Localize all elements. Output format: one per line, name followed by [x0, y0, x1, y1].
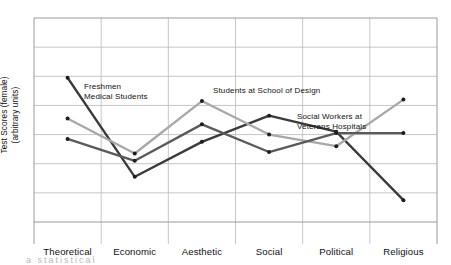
grid-layer: [34, 18, 437, 244]
data-point: [334, 131, 338, 135]
page-edge-artifact: a statistical: [26, 255, 97, 265]
data-point: [133, 152, 137, 156]
data-point: [66, 76, 70, 80]
data-point: [133, 159, 137, 163]
data-point: [66, 117, 70, 121]
data-point: [200, 99, 204, 103]
data-point: [66, 137, 70, 141]
data-point: [401, 98, 405, 102]
x-axis-tick-2: Aesthetic: [168, 246, 235, 257]
annotation-0: FreshmenMedical Students: [84, 82, 148, 101]
annotation-1: Students at School of Design: [213, 86, 320, 96]
annotation-line2: Veterans Hospitals: [297, 122, 366, 132]
annotation-line1: Social Workers at: [297, 112, 366, 122]
data-point: [401, 198, 405, 202]
y-axis-label: Test Scores (female) (arbitrary units): [0, 60, 26, 170]
annotation-2: Social Workers atVeterans Hospitals: [297, 112, 366, 131]
data-point: [200, 122, 204, 126]
chart-container: Test Scores (female) (arbitrary units) T…: [0, 0, 451, 265]
annotation-line2: Medical Students: [84, 92, 148, 102]
data-point: [200, 140, 204, 144]
plot-area: [0, 0, 451, 265]
x-axis-tick-4: Political: [303, 246, 370, 257]
annotation-line1: Students at School of Design: [213, 86, 320, 96]
data-point: [267, 133, 271, 137]
x-axis-tick-3: Social: [236, 246, 303, 257]
data-point: [267, 114, 271, 118]
x-axis-tick-1: Economic: [101, 246, 168, 257]
data-point: [267, 150, 271, 154]
data-point: [401, 131, 405, 135]
y-axis-label-line2: (arbitrary units): [11, 60, 22, 170]
data-point: [334, 144, 338, 148]
x-axis-tick-5: Religious: [370, 246, 437, 257]
y-axis-label-line1: Test Scores (female): [0, 60, 11, 170]
data-point: [133, 175, 137, 179]
annotation-line1: Freshmen: [84, 82, 148, 92]
